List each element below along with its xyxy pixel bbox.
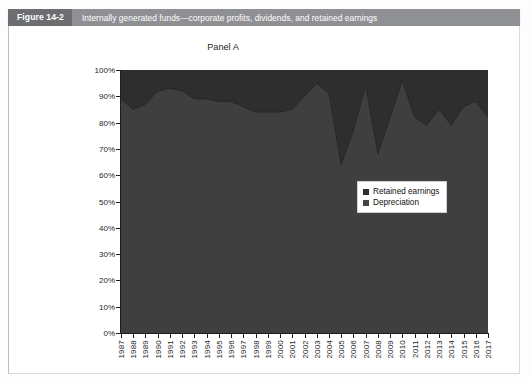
x-axis-tick-label: 1990 (154, 340, 163, 359)
y-axis-tick-label: 20% (85, 276, 115, 285)
chart-legend: Retained earningsDepreciation (357, 181, 447, 213)
y-axis-tick-label: 100% (85, 66, 115, 75)
y-axis-tick-mark (116, 254, 120, 255)
figure-body: Panel A 100%90%80%70%60%50%40%30%20%10%0… (8, 26, 520, 374)
x-axis-tick-mark (317, 334, 318, 338)
x-axis-tick-mark (476, 334, 477, 338)
y-axis-tick-mark (116, 280, 120, 281)
y-axis-tick-label: 10% (85, 302, 115, 311)
y-axis-tick-mark (116, 70, 120, 71)
y-axis-tick-label: 90% (85, 92, 115, 101)
y-axis-tick-mark (116, 228, 120, 229)
x-axis-tick-label: 1995 (215, 340, 224, 359)
figure-caption: Internally generated funds—corporate pro… (72, 13, 377, 23)
figure-header: Figure 14-2 Internally generated funds—c… (8, 9, 520, 26)
y-axis-tick-label: 30% (85, 250, 115, 259)
x-axis-tick-mark (439, 334, 440, 338)
x-axis-tick-mark (305, 334, 306, 338)
x-axis-tick-label: 1992 (178, 340, 187, 359)
y-axis-tick-mark (116, 202, 120, 203)
y-axis-tick-mark (116, 333, 120, 334)
x-axis-tick-mark (207, 334, 208, 338)
x-axis-tick-label: 1998 (252, 340, 261, 359)
x-axis-tick-mark (353, 334, 354, 338)
x-axis-tick-label: 1996 (227, 340, 236, 359)
y-axis-tick-label: 50% (85, 197, 115, 206)
chart-title: Panel A (0, 42, 479, 52)
y-axis-tick-label: 40% (85, 223, 115, 232)
legend-item-label: Retained earnings (373, 186, 439, 197)
y-axis-tick-labels: 100%90%80%70%60%50%40%30%20%10%0% (81, 26, 115, 374)
x-axis-tick-label: 2009 (386, 340, 395, 359)
figure-page: Figure 14-2 Internally generated funds—c… (0, 0, 530, 382)
y-axis-tick-mark (116, 175, 120, 176)
x-axis-tick-label: 2015 (460, 340, 469, 359)
x-axis-tick-label: 1991 (166, 340, 175, 359)
x-axis-tick-label: 2011 (411, 340, 420, 358)
x-axis-tick-mark (231, 334, 232, 338)
y-axis-tick-mark (116, 123, 120, 124)
x-axis-tick-mark (366, 334, 367, 338)
x-axis-tick-mark (256, 334, 257, 338)
x-axis-tick-mark (182, 334, 183, 338)
x-axis-tick-mark (145, 334, 146, 338)
legend-item-label: Depreciation (373, 197, 419, 208)
x-axis-tick-mark (243, 334, 244, 338)
legend-swatch-icon (363, 200, 369, 206)
x-axis-tick-label: 1994 (203, 340, 212, 359)
x-axis-tick-mark (133, 334, 134, 338)
y-axis-tick-mark (116, 149, 120, 150)
y-axis-line (120, 70, 121, 334)
x-axis-tick-label: 2016 (472, 340, 481, 359)
x-axis-tick-label: 2017 (484, 340, 493, 359)
x-axis-tick-label: 2005 (337, 340, 346, 359)
x-axis-tick-label: 2006 (349, 340, 358, 359)
chart-container: Panel A 100%90%80%70%60%50%40%30%20%10%0… (9, 26, 521, 374)
x-axis-tick-label: 1989 (141, 340, 150, 359)
x-axis-tick-label: 2002 (301, 340, 310, 359)
x-axis-tick-mark (415, 334, 416, 338)
x-axis-tick-mark (268, 334, 269, 338)
figure-number-badge: Figure 14-2 (8, 9, 72, 26)
x-axis-tick-mark (158, 334, 159, 338)
y-axis-tick-label: 60% (85, 171, 115, 180)
x-axis-tick-mark (280, 334, 281, 338)
x-axis-tick-mark (488, 334, 489, 338)
x-axis-tick-mark (194, 334, 195, 338)
x-axis-tick-mark (427, 334, 428, 338)
x-axis-tick-mark (219, 334, 220, 338)
y-axis-tick-label: 80% (85, 118, 115, 127)
y-axis-tick-mark (116, 96, 120, 97)
x-axis-tick-mark (390, 334, 391, 338)
x-axis-tick-label: 1988 (129, 340, 138, 359)
y-axis-tick-label: 70% (85, 144, 115, 153)
x-axis-tick-label: 2014 (447, 340, 456, 359)
legend-swatch-icon (363, 189, 369, 195)
x-axis-tick-label: 2010 (398, 340, 407, 359)
x-axis-tick-label: 2001 (288, 340, 297, 359)
x-axis-tick-label: 2000 (276, 340, 285, 359)
x-axis-tick-label: 1997 (239, 340, 248, 359)
x-axis-tick-mark (292, 334, 293, 338)
x-axis-tick-label: 2003 (313, 340, 322, 359)
legend-item: Retained earnings (363, 186, 439, 197)
x-axis-tick-label: 1993 (190, 340, 199, 359)
x-axis-tick-label: 2008 (374, 340, 383, 359)
x-axis-tick-label: 2013 (435, 340, 444, 359)
x-axis-tick-mark (121, 334, 122, 338)
x-axis-tick-label: 2004 (325, 340, 334, 359)
x-axis-tick-mark (402, 334, 403, 338)
x-axis-tick-mark (378, 334, 379, 338)
y-axis-tick-mark (116, 307, 120, 308)
x-axis-tick-label: 1987 (117, 340, 126, 359)
x-axis-tick-mark (341, 334, 342, 338)
y-axis-tick-label: 0% (85, 329, 115, 338)
x-axis-tick-label: 2007 (362, 340, 371, 359)
x-axis-tick-label: 1999 (264, 340, 273, 359)
legend-item: Depreciation (363, 197, 439, 208)
x-axis-tick-mark (170, 334, 171, 338)
x-axis-tick-mark (329, 334, 330, 338)
x-axis-tick-label: 2012 (423, 340, 432, 359)
x-axis-tick-mark (464, 334, 465, 338)
x-axis-tick-mark (451, 334, 452, 338)
